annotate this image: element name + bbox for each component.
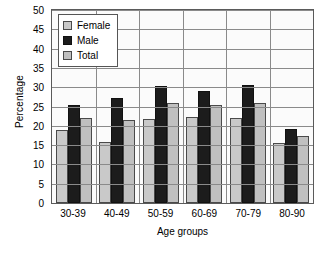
x-tick-label: 80-90 [270,208,314,222]
y-axis-tick-labels: 50454035302520151050 [22,9,44,204]
y-tick-label: 5 [38,178,44,189]
y-tick-label: 15 [33,140,44,151]
legend-item-total: Total [63,48,110,63]
x-axis-title: Age groups [51,226,314,237]
y-tick-label: 20 [33,120,44,131]
bar-male-40-49 [111,98,123,203]
x-tick-label: 40-49 [95,208,139,222]
legend-label: Total [77,51,98,61]
bar-female-60-69 [186,117,198,203]
x-tick-label: 60-69 [182,208,226,222]
y-tick-label: 30 [33,82,44,93]
y-tick-label: 10 [33,159,44,170]
bar-total-60-69 [210,105,222,203]
category-separator [183,10,184,203]
category-separator [139,10,140,203]
legend-swatch-female-icon [63,21,72,30]
x-tick-label: 50-59 [139,208,183,222]
y-tick-label: 35 [33,62,44,73]
bar-female-50-59 [143,119,155,203]
x-axis-tick-labels: 30-3940-4950-5960-6970-7980-90 [51,208,314,222]
bar-total-70-79 [254,103,266,203]
legend-label: Male [77,36,99,46]
x-tick-label: 70-79 [226,208,270,222]
bar-male-80-90 [285,129,297,203]
legend-item-female: Female [63,18,110,33]
y-tick-label: 50 [33,5,44,16]
category-separator [226,10,227,203]
bar-female-40-49 [99,142,111,203]
bar-total-80-90 [297,136,309,203]
legend-label: Female [77,21,110,31]
legend-swatch-total-icon [63,51,72,60]
bar-female-80-90 [273,143,285,203]
legend-swatch-male-icon [63,36,72,45]
bar-chart-figure: Percentage 50454035302520151050 30-3940-… [0,0,329,257]
figure-caption [18,249,318,257]
y-tick-label: 0 [38,198,44,209]
x-tick-label: 30-39 [51,208,95,222]
bar-total-30-39 [80,118,92,203]
bar-total-40-49 [123,120,135,203]
legend-item-male: Male [63,33,110,48]
bar-female-30-39 [56,130,68,203]
bar-female-70-79 [230,118,242,203]
y-tick-label: 45 [33,24,44,35]
y-tick-label: 40 [33,43,44,54]
bar-male-60-69 [198,91,210,203]
bar-total-50-59 [167,103,179,203]
legend: FemaleMaleTotal [58,14,118,67]
category-separator [270,10,271,203]
y-tick-label: 25 [33,101,44,112]
bar-male-30-39 [68,105,80,203]
